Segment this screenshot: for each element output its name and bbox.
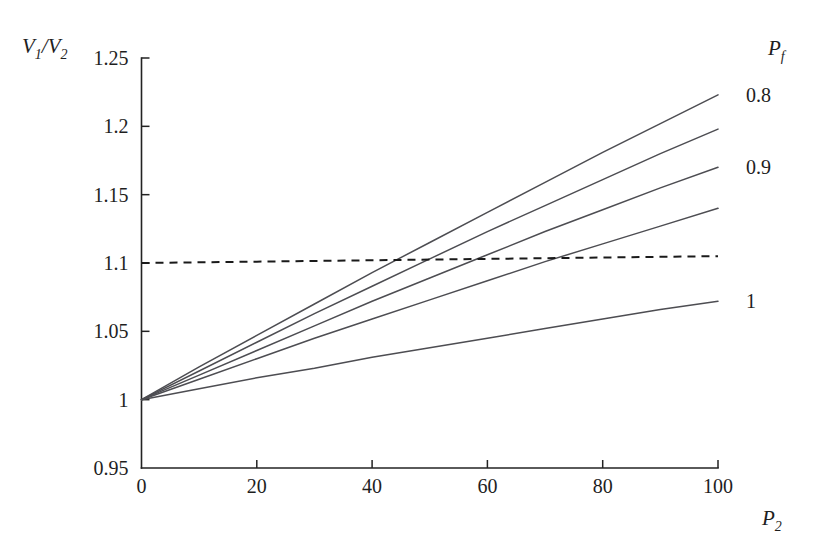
y-axis-tick-labels: 0.9511.051.11.151.21.25 (94, 47, 129, 479)
x-tick-label: 80 (593, 475, 613, 497)
series-end-labels: 0.80.91 (746, 84, 771, 312)
y-tick-label: 1 (119, 389, 129, 411)
x-tick-label: 20 (247, 475, 267, 497)
x-axis-label-base: P (761, 506, 775, 530)
series-label-1: 1 (746, 290, 756, 312)
data-curve (142, 129, 719, 400)
y-tick-label: 1.2 (104, 115, 129, 137)
y-tick-label: 1.05 (94, 320, 129, 342)
y-tick-label: 1.15 (94, 184, 129, 206)
svg-text:V1/V2: V1/V2 (22, 34, 68, 62)
x-axis-tick-labels: 020406080100 (137, 475, 734, 497)
y-tick-label: 1.1 (104, 252, 129, 274)
y-tick-label: 1.25 (94, 47, 129, 69)
data-series-group (142, 95, 719, 400)
line-chart: 0.9511.051.11.151.21.25 020406080100 0.8… (0, 0, 831, 543)
y-tick-label: 0.95 (94, 457, 129, 479)
legend-title-sub: f (781, 49, 787, 64)
x-tick-label: 100 (703, 475, 733, 497)
x-tick-label: 0 (137, 475, 147, 497)
x-tick-label: 60 (477, 475, 497, 497)
svg-text:P2: P2 (761, 506, 782, 534)
series-label-0-9: 0.9 (746, 156, 771, 178)
x-tick-label: 40 (362, 475, 382, 497)
chart-figure: 0.9511.051.11.151.21.25 020406080100 0.8… (0, 0, 831, 543)
series-label-0-8: 0.8 (746, 84, 771, 106)
x-axis-label-sub: 2 (775, 519, 782, 534)
x-axis-label: P2 (761, 506, 782, 534)
legend-title: Pf (767, 36, 787, 64)
legend-title-base: P (767, 36, 781, 60)
data-curve (142, 167, 719, 399)
data-curve (142, 95, 719, 400)
data-curve (142, 208, 719, 399)
y-axis-label: V1/V2 (22, 34, 68, 62)
y-axis-label-numerator-sub: 1 (35, 47, 42, 62)
y-axis-label-denominator-sub: 2 (61, 47, 68, 62)
axes-spines (142, 58, 719, 468)
y-axis-ticks (142, 58, 150, 400)
svg-text:Pf: Pf (767, 36, 787, 64)
x-axis-ticks (257, 460, 718, 468)
